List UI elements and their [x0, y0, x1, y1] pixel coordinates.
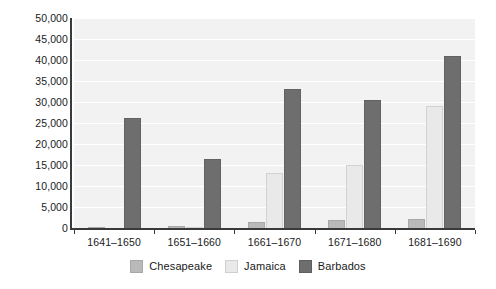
bar-group: [315, 18, 395, 228]
legend-label: Jamaica: [244, 260, 286, 273]
y-axis-tick-label: 5,000: [0, 202, 68, 213]
bar-group: [74, 18, 154, 228]
bar-group: [154, 18, 234, 228]
bar-jamaica-1671-1680: [346, 165, 363, 228]
x-axis-tick: [475, 230, 476, 234]
bars-layer: [74, 18, 475, 228]
legend-swatch-chesapeake: [130, 260, 143, 273]
legend-label: Chesapeake: [149, 260, 212, 273]
bar-barbados-1661-1670: [284, 89, 301, 228]
y-axis-tick-label: 0: [0, 223, 68, 234]
y-axis-tick-label: 20,000: [0, 139, 68, 150]
legend-item-jamaica[interactable]: Jamaica: [225, 260, 286, 273]
x-axis-tick-label: 1641–1650: [74, 236, 154, 249]
x-axis-tick-label: 1681–1690: [395, 236, 475, 249]
legend-label: Barbados: [318, 260, 366, 273]
bar-barbados-1681-1690: [444, 56, 461, 228]
x-axis-tick-label: 1651–1660: [154, 236, 234, 249]
x-axis-tick: [74, 230, 75, 234]
x-axis-labels: 1641–16501651–16601661–16701671–16801681…: [74, 236, 475, 252]
y-axis-tick-label: 15,000: [0, 160, 68, 171]
y-axis-tick-label: 10,000: [0, 181, 68, 192]
y-axis-tick-label: 30,000: [0, 97, 68, 108]
bar-barbados-1641-1650: [124, 118, 141, 228]
y-axis-tick-label: 40,000: [0, 55, 68, 66]
bar-chesapeake-1681-1690: [408, 219, 425, 228]
x-axis-tick: [315, 230, 316, 234]
legend-item-barbados[interactable]: Barbados: [299, 260, 366, 273]
y-axis-labels: 05,00010,00015,00020,00025,00030,00035,0…: [0, 0, 68, 289]
y-axis-tick-label: 45,000: [0, 34, 68, 45]
bar-jamaica-1681-1690: [426, 106, 443, 228]
legend-item-chesapeake[interactable]: Chesapeake: [130, 260, 212, 273]
y-axis-tick-label: 25,000: [0, 118, 68, 129]
bar-jamaica-1661-1670: [266, 173, 283, 228]
bar-group: [234, 18, 314, 228]
x-axis-tick: [395, 230, 396, 234]
bar-barbados-1651-1660: [204, 159, 221, 228]
legend-swatch-jamaica: [225, 260, 238, 273]
bar-chart: 05,00010,00015,00020,00025,00030,00035,0…: [0, 0, 496, 289]
y-axis-tick-label: 35,000: [0, 76, 68, 87]
x-axis-line: [70, 228, 475, 230]
legend-swatch-barbados: [299, 260, 312, 273]
chart-legend: ChesapeakeJamaicaBarbados: [0, 260, 496, 273]
bar-group: [395, 18, 475, 228]
x-axis-tick: [234, 230, 235, 234]
x-axis-tick-label: 1671–1680: [315, 236, 395, 249]
x-axis-tick: [154, 230, 155, 234]
y-axis-line: [70, 18, 72, 230]
y-axis-tick-label: 50,000: [0, 13, 68, 24]
x-axis-tick-label: 1661–1670: [234, 236, 314, 249]
bar-barbados-1671-1680: [364, 100, 381, 228]
bar-chesapeake-1671-1680: [328, 220, 345, 228]
